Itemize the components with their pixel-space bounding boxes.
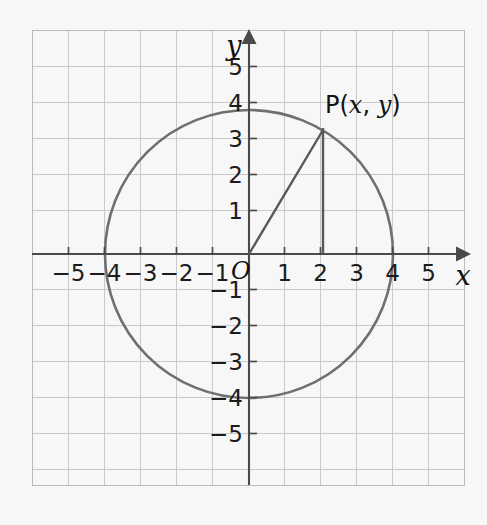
y-tick-label: 4 [228, 90, 243, 116]
x-tick-label: −2 [160, 260, 194, 286]
x-tick-label: 2 [313, 260, 328, 286]
point-label-y: y [377, 91, 392, 119]
y-tick-label: 2 [228, 162, 243, 188]
x-axis-label: x [455, 260, 470, 291]
point-label-suffix: ) [391, 91, 400, 119]
radius-segment [249, 130, 323, 254]
x-tick-label: 1 [277, 260, 292, 286]
x-tick-label: 5 [421, 260, 436, 286]
x-tick-label: −3 [124, 260, 158, 286]
y-tick-label: −4 [209, 385, 243, 411]
y-axis-label: y [225, 30, 242, 61]
y-tick-label: 1 [228, 198, 243, 224]
coordinate-plane-svg: −5 −4 −3 −2 −1 1 2 3 4 5 5 4 3 2 1 −1 −2… [0, 0, 487, 525]
x-tick-label: −4 [88, 260, 122, 286]
axes [32, 29, 471, 485]
y-tick-label: −5 [209, 421, 243, 447]
origin-label: O [231, 257, 251, 285]
x-tick-label: 3 [349, 260, 364, 286]
y-tick-label: 3 [228, 126, 243, 152]
y-tick-label: −2 [209, 313, 243, 339]
x-tick-label: −5 [52, 260, 86, 286]
coordinate-plane-figure: −5 −4 −3 −2 −1 1 2 3 4 5 5 4 3 2 1 −1 −2… [0, 0, 487, 525]
point-label-comma: , [362, 91, 377, 119]
y-tick-label: −3 [209, 349, 243, 375]
point-label-prefix: P( [325, 91, 349, 119]
y-axis-arrowhead [242, 29, 257, 44]
x-tick-label: 4 [385, 260, 400, 286]
point-label-x: x [349, 91, 363, 119]
triangle-construction [249, 128, 323, 254]
point-p-label: P(x, y) [325, 91, 401, 119]
